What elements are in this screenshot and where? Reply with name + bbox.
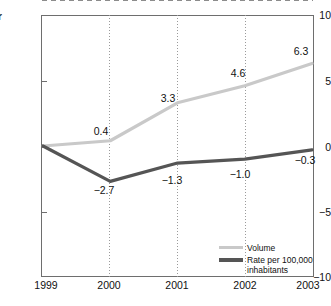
x-axis-tick-label: 2003 [296, 279, 319, 291]
y-axis-tick-label: 0 [297, 141, 331, 153]
legend-label-rate: Rate per 100,000 inhabitants [247, 255, 313, 275]
x-axis-tick-label: 2001 [165, 279, 188, 291]
x-axis-tick-label: 2002 [233, 279, 256, 291]
y-axis-tick-label: −5 [297, 206, 331, 218]
x-axis-tick-label: 1999 [34, 279, 57, 291]
data-label-rate: −1.0 [230, 168, 251, 180]
legend-item-rate: Rate per 100,000 inhabitants [219, 255, 313, 275]
legend-label-volume: Volume [247, 243, 275, 253]
legend-item-volume: Volume [219, 243, 313, 253]
clipped-axis-label: r [0, 11, 2, 22]
data-label-volume: 0.4 [94, 125, 109, 137]
x-axis-tick-label: 2000 [97, 279, 120, 291]
data-label-volume: 3.3 [161, 92, 176, 104]
legend-swatch-rate [219, 258, 243, 262]
data-label-rate: −0.3 [295, 154, 316, 166]
legend-swatch-volume [219, 246, 243, 249]
y-axis-tick-mark [41, 147, 47, 148]
x-gridline-2002 [245, 15, 246, 277]
zero-reference-line [42, 0, 313, 1]
y-axis-tick-label: 5 [297, 75, 331, 87]
y-axis-tick-mark [41, 81, 47, 82]
data-label-volume: 4.6 [231, 67, 246, 79]
data-label-rate: −1.3 [162, 174, 183, 186]
x-gridline-2000 [109, 15, 110, 277]
x-gridline-2001 [177, 15, 178, 277]
line-chart: r 10 5 0 −5 −10 1999 2000 2001 2002 2003… [0, 0, 331, 306]
data-label-rate: −2.7 [94, 184, 115, 196]
y-axis-tick-label: 10 [297, 9, 331, 21]
data-label-volume: 6.3 [294, 45, 309, 57]
y-axis-tick-mark [41, 212, 47, 213]
chart-legend: Volume Rate per 100,000 inhabitants [219, 243, 313, 277]
